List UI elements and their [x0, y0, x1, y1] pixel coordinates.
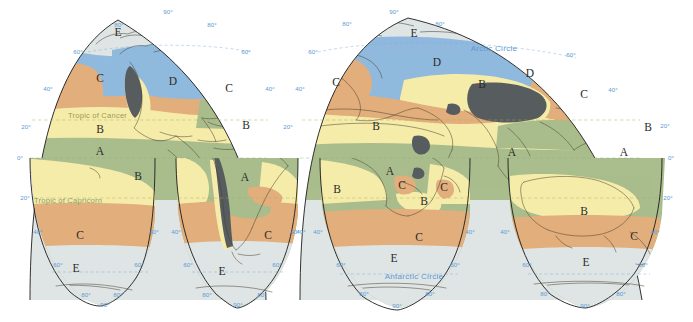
latitude-tick-label: 40°: [650, 228, 660, 235]
latitude-tick-label: 40°: [171, 228, 181, 235]
latitude-tick-label: 40°: [265, 85, 275, 92]
climate-zone-label-C: C: [440, 181, 448, 193]
tropic-of-cancer-label: Tropic of Cancer: [68, 111, 127, 120]
climate-zone-label-A: A: [96, 145, 105, 157]
climate-zone-label-B: B: [644, 121, 652, 133]
latitude-tick-label: 40°: [33, 228, 43, 235]
climate-zone-label-E: E: [582, 256, 589, 268]
zone-a-se: [196, 99, 266, 130]
latitude-tick-label: 60°: [53, 261, 63, 268]
climate-zone-label-C: C: [264, 229, 272, 241]
latitude-tick-label: 60°: [522, 261, 532, 268]
climate-zone-label-B: B: [580, 205, 588, 217]
climate-zone-label-D: D: [526, 67, 534, 79]
latitude-tick-label: 80°: [202, 291, 212, 298]
latitude-tick-label: 80°: [359, 290, 369, 297]
climate-zone-label-E: E: [390, 252, 397, 264]
latitude-tick-label: 0°: [668, 154, 674, 161]
climate-zone-label-D: D: [169, 75, 177, 87]
climate-zone-label-D: D: [433, 56, 441, 68]
climate-zone-label-B: B: [333, 183, 341, 195]
latitude-tick-label: 60°: [241, 48, 251, 55]
climate-zone-label-C: C: [332, 76, 340, 88]
latitude-tick-label: 90°: [163, 8, 173, 15]
latitude-tick-label: 90°: [580, 302, 590, 309]
map-canvas: ECDCBBABACCEEEDCBDCBAABACCBBCBCEE 90°80°…: [0, 0, 693, 322]
climate-zone-label-B: B: [134, 170, 142, 182]
latitude-tick-label: 20°: [283, 123, 293, 130]
latitude-tick-label: 20°: [21, 123, 31, 130]
latitude-tick-label: 60°: [308, 48, 318, 55]
climate-zone-label-B: B: [242, 119, 250, 131]
climate-zone-label-E: E: [72, 262, 79, 274]
greenland-ice: [192, 20, 245, 62]
climate-zone-label-A: A: [241, 171, 250, 183]
latitude-tick-label: 80°: [540, 290, 550, 297]
latitude-tick-label: 20°: [20, 194, 30, 201]
climate-zone-label-C: C: [398, 179, 406, 191]
latitude-tick-label: 90°: [233, 301, 243, 308]
latitude-tick-label: 40°: [608, 86, 618, 93]
latitude-tick-label: 20°: [663, 194, 673, 201]
latitude-tick-label: 80°: [435, 20, 445, 27]
world-climate-map: ECDCBBABACCEEEDCBDCBAABACCBBCBCEE 90°80°…: [0, 0, 693, 322]
latitude-tick-label: 60°: [638, 261, 648, 268]
latitude-tick-label: 40°: [313, 228, 323, 235]
latitude-tick-label: 80°: [425, 290, 435, 297]
climate-zone-label-C: C: [630, 230, 638, 242]
latitude-tick-label: 60°: [73, 48, 83, 55]
latitude-tick-label: 60°: [450, 261, 460, 268]
latitude-tick-label: 80°: [342, 20, 352, 27]
climate-zone-label-B: B: [420, 195, 428, 207]
latitude-tick-label: 90°: [389, 8, 399, 15]
latitude-tick-label: 40°: [149, 228, 159, 235]
climate-zone-label-C: C: [580, 88, 588, 100]
arctic-circle-label: Arctic Circle: [471, 44, 518, 53]
zone-c-s3: [322, 209, 470, 250]
latitude-tick-label: 80°: [114, 21, 124, 28]
tropic-of-capricorn-label: Tropic of Capricorn: [34, 196, 102, 205]
latitude-tick-label: 90°: [100, 301, 110, 308]
climate-zone-label-A: A: [386, 165, 395, 177]
climate-zone-label-B: B: [478, 78, 486, 90]
latitude-tick-label: 0°: [17, 154, 23, 161]
latitude-tick-label: 60°: [272, 261, 282, 268]
latitude-tick-label: 40°: [296, 228, 306, 235]
climate-zone-label-B: B: [372, 120, 380, 132]
latitude-tick-label: 80°: [113, 291, 123, 298]
latitude-tick-label: 40°: [500, 228, 510, 235]
climate-zone-label-B: B: [96, 123, 104, 135]
climate-zone-label-A: A: [508, 146, 517, 158]
latitude-tick-label: 80°: [207, 21, 217, 28]
latitude-tick-label: 60°: [336, 261, 346, 268]
climate-zone-label-C: C: [225, 82, 233, 94]
latitude-tick-label: 60°: [566, 51, 576, 58]
antarctic-circle-label: Antarctic Circle: [385, 272, 444, 281]
latitude-tick-label: 60°: [134, 261, 144, 268]
climate-zone-label-C: C: [415, 231, 423, 243]
latitude-tick-label: 40°: [295, 85, 305, 92]
latitude-tick-label: 20°: [660, 122, 670, 129]
climate-zone-label-A: A: [620, 146, 629, 158]
latitude-tick-label: 60°: [183, 261, 193, 268]
climate-zone-label-C: C: [96, 72, 104, 84]
latitude-tick-label: 80°: [616, 290, 626, 297]
latitude-tick-label: 80°: [257, 291, 267, 298]
latitude-tick-label: 80°: [81, 291, 91, 298]
latitude-tick-label: 40°: [43, 85, 53, 92]
climate-zone-label-C: C: [76, 229, 84, 241]
latitude-tick-label: 90°: [392, 302, 402, 309]
climate-zone-label-E: E: [218, 265, 225, 277]
climate-zone-label-E: E: [410, 27, 417, 39]
latitude-tick-label: 40°: [465, 228, 475, 235]
